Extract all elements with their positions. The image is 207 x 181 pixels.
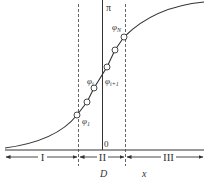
phi-i-label: φi [87,76,94,87]
pi-label: π [106,2,111,13]
node-circle-N [121,34,127,40]
phi-1-label: φ1 [82,116,90,127]
profile-curve [5,2,204,148]
d-label: D [99,168,108,179]
region-III-label: III [163,151,174,163]
region-I-label: I [41,151,45,163]
node-circle-2 [84,99,90,105]
x-axis-label: x [141,168,147,179]
node-circle-i-plus-1 [104,64,110,70]
node-circle-5 [112,47,118,53]
diagram-canvas: π φN φi φi+1 φ1 0 I II III D x [0,0,207,181]
node-circle-1 [74,112,80,118]
phi-N-label: φN [112,22,122,33]
origin-label: 0 [104,139,109,149]
phi-i-plus-1-label: φi+1 [105,76,119,87]
node-markers [74,34,127,118]
region-II-label: II [99,151,107,163]
